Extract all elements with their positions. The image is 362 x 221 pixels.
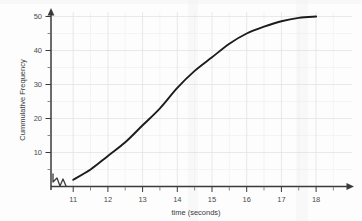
x-tick-label-18: 18 xyxy=(312,195,320,204)
x-tick-label-15: 15 xyxy=(208,195,216,204)
chart-canvas: 50 40 30 20 10 11 12 13 14 15 16 17 18 t… xyxy=(0,0,362,221)
x-axis xyxy=(51,183,354,192)
axis-break-icon xyxy=(53,174,66,186)
y-tick-label-40: 40 xyxy=(34,46,42,55)
x-axis-arrow-icon xyxy=(347,183,355,190)
y-tick-labels: 50 40 30 20 10 xyxy=(34,12,42,157)
y-axis-title: Cummulative Frequency xyxy=(18,59,27,141)
x-tick-label-16: 16 xyxy=(243,195,251,204)
x-tick-label-17: 17 xyxy=(277,195,285,204)
x-tick-label-13: 13 xyxy=(138,195,146,204)
y-tick-label-50: 50 xyxy=(34,12,42,21)
y-tick-label-20: 20 xyxy=(34,114,42,123)
x-tick-label-12: 12 xyxy=(104,195,112,204)
x-tick-label-14: 14 xyxy=(173,195,181,204)
y-tick-label-30: 30 xyxy=(34,80,42,89)
x-axis-title: time (seconds) xyxy=(171,208,221,217)
cumulative-frequency-chart: 50 40 30 20 10 11 12 13 14 15 16 17 18 t… xyxy=(0,0,362,221)
x-tick-label-11: 11 xyxy=(69,195,77,204)
y-axis-arrow-icon xyxy=(48,8,55,16)
y-axis xyxy=(46,8,55,190)
y-tick-label-10: 10 xyxy=(34,148,42,157)
paper-texture xyxy=(0,0,362,221)
